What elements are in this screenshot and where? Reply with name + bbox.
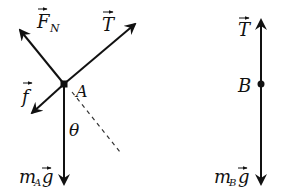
body-b-diagram: T B m B g bbox=[214, 18, 265, 188]
normal-force-arrow bbox=[20, 30, 64, 84]
tension-a-arrow bbox=[64, 24, 135, 84]
point-b-label: B bbox=[237, 75, 251, 96]
weight-a-subscript: A bbox=[33, 177, 41, 188]
theta-label: θ bbox=[69, 120, 79, 140]
body-a-diagram: F N T f A θ m A g bbox=[19, 9, 135, 188]
free-body-diagram: F N T f A θ m A g T B m B g bbox=[0, 0, 284, 196]
weight-b-subscript: B bbox=[228, 177, 236, 188]
friction-arrow bbox=[32, 84, 64, 113]
point-b-marker bbox=[258, 81, 265, 88]
weight-b-g-label: g bbox=[238, 166, 250, 187]
friction-label: f bbox=[20, 86, 32, 107]
fn-label: F bbox=[36, 11, 51, 32]
weight-a-g-label: g bbox=[42, 166, 54, 187]
tension-b-label: T bbox=[238, 19, 252, 40]
fn-subscript: N bbox=[49, 22, 60, 35]
point-a-marker bbox=[61, 81, 68, 88]
tension-a-label: T bbox=[102, 14, 116, 35]
point-a-label: A bbox=[74, 82, 88, 101]
